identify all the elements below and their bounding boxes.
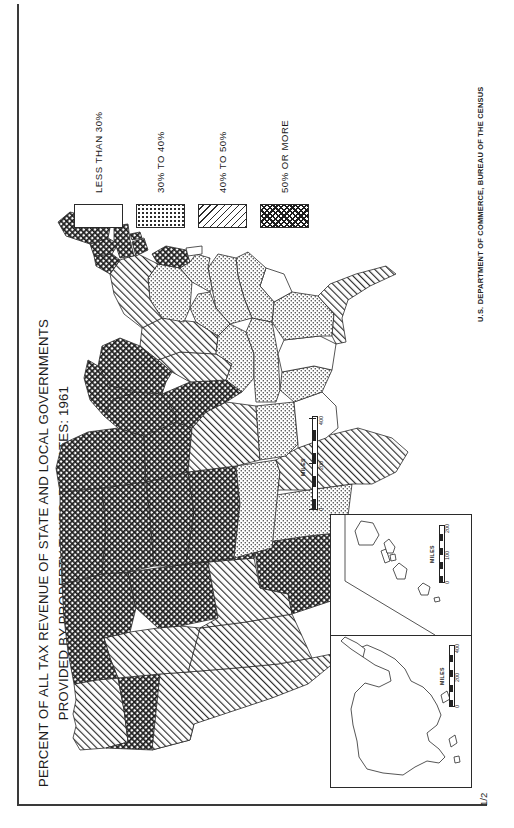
hawaii-scale-seg [439,534,443,541]
state-minnesota [56,428,146,492]
state-nebraska [146,472,194,566]
map-page: PERCENT OF ALL TAX REVENUE OF STATE AND … [0,0,514,828]
state-wyoming [128,562,218,628]
state-connecticut [132,238,148,256]
main-scale-tick [309,418,316,419]
legend-item[interactable]: 50% OR MORE [260,111,309,228]
swatch-crosshatched-icon [260,204,309,228]
map-sheet: PERCENT OF ALL TAX REVENUE OF STATE AND … [0,0,514,828]
island-niihau [434,597,440,602]
island-kauai [418,583,430,595]
swatch-blank-icon [74,204,123,228]
alaska-scale-bar: MILES 0 200 400 [439,641,461,707]
state-alabama [278,336,336,372]
main-scale-tick-2: 400 [318,416,324,425]
page-folio: 1/2 [478,793,489,806]
swatch-hatched-icon [198,204,247,228]
map-legend: LESS THAN 30% 30% TO 40% 40% TO 50% 50% … [74,111,322,228]
alaska-scale-seg [449,700,453,707]
legend-item[interactable]: 40% TO 50% [198,111,247,228]
hawaii-scale-seg [439,576,443,583]
alaska-aleutian-islands [454,756,460,763]
main-scale-bar: MILES 0 200 400 [300,410,326,510]
alaska-scale-tick-0: 0 [454,705,460,708]
main-scale-seg [312,430,316,441]
legend-label: 40% TO 50% [217,131,228,193]
legend-label: 50% OR MORE [279,120,290,193]
main-scale-tick-0: 0 [318,508,324,511]
main-scale-unit-label: MILES [300,458,306,476]
state-rhode-island [130,232,142,240]
island-lanai [390,554,396,561]
main-scale-tick [309,509,316,510]
alaska-panhandle [341,637,365,657]
agency-credit: U.S. DEPARTMENT OF COMMERCE, BUREAU OF T… [476,87,485,322]
legend-item[interactable]: LESS THAN 30% [74,111,123,228]
hawaii-scale-bar: MILES 0 100 200 [429,521,451,583]
legend-item[interactable]: 30% TO 40% [136,111,185,228]
alaska-aleutian-islands [449,735,457,747]
state-massachusetts [114,224,134,258]
state-kansas [186,466,240,564]
hawaii-scale-tick-2: 200 [444,524,450,533]
swatch-dotted-icon [136,204,185,228]
alaska-scale-seg [449,685,453,692]
alaska-scale-tick-1: 200 [454,673,460,682]
state-south-dakota [102,482,154,574]
alaska-inset: MILES 0 200 400 [330,634,472,788]
state-delaware [186,246,202,256]
main-scale-seg [312,476,316,487]
alaska-scale-seg [449,670,453,677]
island-hawaii [355,521,379,545]
main-scale-tick-1: 200 [318,461,324,470]
hawaii-scale-unit-label: MILES [429,545,435,563]
main-scale-tick [309,463,316,464]
island-oahu [393,563,407,579]
state-alaska [351,645,445,775]
alaska-scale-seg [449,655,453,662]
hawaii-scale-tick-1: 100 [444,551,450,560]
legend-label: LESS THAN 30% [93,111,104,193]
hawaii-scale-tick-0: 0 [444,581,450,584]
hawaii-scale-seg [439,548,443,555]
hawaii-scale-seg [439,562,443,569]
hawaii-inset: MILES 0 100 200 [330,514,472,636]
legend-label: 30% TO 40% [155,131,166,193]
state-north-dakota [60,488,106,584]
alaska-scale-unit-label: MILES [439,667,445,685]
alaska-scale-tick-2: 400 [454,644,460,653]
